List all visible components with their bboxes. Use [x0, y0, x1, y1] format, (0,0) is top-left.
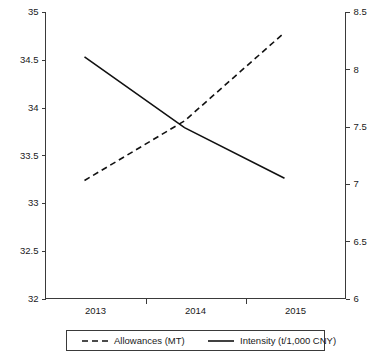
- x-tick-label: 2015: [285, 305, 306, 316]
- x-tick-label: 2013: [85, 305, 106, 316]
- left-tick-label: 33.5: [20, 150, 39, 161]
- x-tick-label: 2014: [185, 305, 206, 316]
- legend-label-allowances: Allowances (MT): [114, 335, 185, 346]
- left-tick-label: 34: [28, 102, 39, 113]
- legend-label-intensity: Intensity (t/1,000 CNY): [240, 335, 336, 346]
- left-tick-label: 33: [28, 197, 39, 208]
- dual-axis-line-chart: 3232.53333.53434.535 66.577.588.5 201320…: [0, 0, 389, 357]
- left-tick-label: 32: [28, 293, 39, 304]
- right-tick-label: 8: [354, 64, 359, 75]
- right-tick-label: 6.5: [354, 236, 367, 247]
- right-tick-label: 8.5: [354, 6, 367, 17]
- chart-background: [0, 0, 389, 357]
- chart-container: 3232.53333.53434.535 66.577.588.5 201320…: [0, 0, 389, 357]
- left-tick-label: 35: [28, 6, 39, 17]
- right-tick-label: 6: [354, 293, 359, 304]
- right-tick-label: 7.5: [354, 121, 367, 132]
- left-tick-label: 32.5: [20, 245, 39, 256]
- left-tick-label: 34.5: [20, 54, 39, 65]
- right-tick-label: 7: [354, 178, 359, 189]
